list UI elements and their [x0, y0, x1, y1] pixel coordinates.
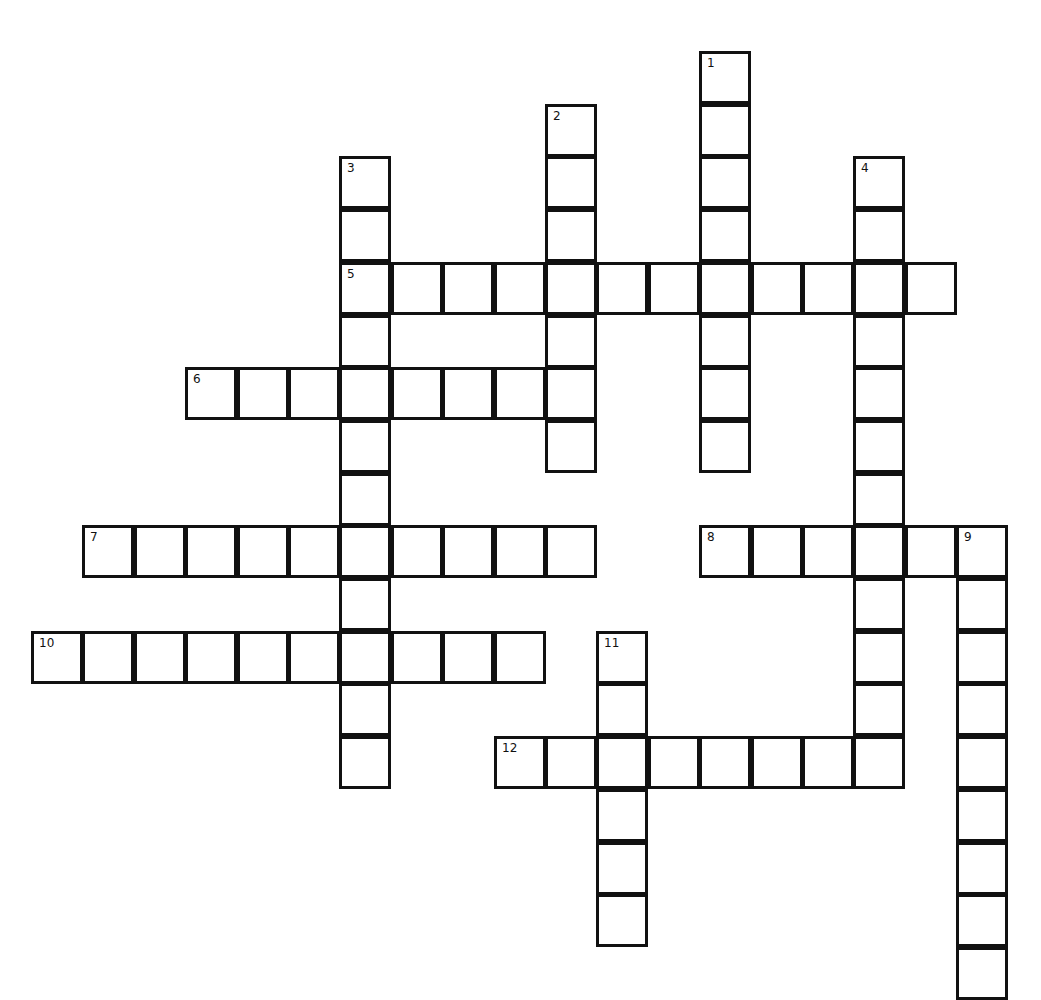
crossword-cell[interactable] [494, 262, 546, 315]
crossword-cell[interactable] [853, 736, 905, 789]
crossword-cell[interactable] [545, 736, 597, 789]
crossword-cell[interactable] [339, 525, 391, 578]
crossword-cell[interactable] [751, 525, 803, 578]
crossword-cell[interactable] [853, 315, 905, 368]
crossword-cell[interactable] [339, 578, 391, 631]
crossword-cell[interactable] [545, 156, 597, 209]
crossword-cell[interactable] [185, 525, 237, 578]
crossword-cell[interactable] [134, 525, 186, 578]
crossword-cell[interactable] [751, 736, 803, 789]
crossword-cell[interactable]: 11 [596, 631, 648, 684]
crossword-cell[interactable]: 7 [82, 525, 134, 578]
crossword-cell[interactable] [545, 525, 597, 578]
crossword-cell[interactable] [545, 367, 597, 420]
clue-number: 4 [861, 162, 869, 174]
crossword-cell[interactable] [853, 473, 905, 526]
crossword-cell[interactable] [596, 262, 648, 315]
crossword-cell[interactable] [185, 631, 237, 684]
crossword-cell[interactable] [494, 631, 546, 684]
crossword-cell[interactable] [648, 736, 700, 789]
crossword-cell[interactable]: 5 [339, 262, 391, 315]
crossword-cell[interactable] [442, 631, 494, 684]
crossword-cell[interactable] [802, 736, 854, 789]
crossword-cell[interactable] [802, 262, 854, 315]
crossword-cell[interactable] [956, 736, 1008, 789]
crossword-cell[interactable] [956, 631, 1008, 684]
crossword-cell[interactable] [699, 420, 751, 473]
crossword-cell[interactable] [699, 367, 751, 420]
crossword-cell[interactable] [853, 262, 905, 315]
crossword-cell[interactable]: 12 [494, 736, 546, 789]
crossword-cell[interactable]: 3 [339, 156, 391, 209]
crossword-cell[interactable] [339, 736, 391, 789]
crossword-cell[interactable] [699, 315, 751, 368]
crossword-cell[interactable] [905, 525, 957, 578]
crossword-cell[interactable] [339, 209, 391, 262]
crossword-cell[interactable] [853, 578, 905, 631]
crossword-cell[interactable] [237, 525, 289, 578]
crossword-cell[interactable] [956, 947, 1008, 1000]
crossword-cell[interactable] [545, 315, 597, 368]
crossword-cell[interactable] [288, 631, 340, 684]
crossword-cell[interactable] [956, 683, 1008, 736]
crossword-cell[interactable] [853, 683, 905, 736]
crossword-cell[interactable] [853, 420, 905, 473]
crossword-cell[interactable] [545, 262, 597, 315]
crossword-cell[interactable] [494, 367, 546, 420]
crossword-cell[interactable] [339, 631, 391, 684]
crossword-cell[interactable] [442, 367, 494, 420]
crossword-cell[interactable] [596, 842, 648, 895]
crossword-cell[interactable] [596, 894, 648, 947]
clue-number: 3 [347, 162, 355, 174]
crossword-cell[interactable] [956, 894, 1008, 947]
crossword-cell[interactable] [853, 525, 905, 578]
crossword-cell[interactable] [802, 525, 854, 578]
crossword-cell[interactable] [288, 367, 340, 420]
crossword-cell[interactable] [596, 683, 648, 736]
crossword-cell[interactable] [339, 420, 391, 473]
crossword-cell[interactable] [699, 156, 751, 209]
crossword-cell[interactable]: 10 [31, 631, 83, 684]
crossword-cell[interactable]: 1 [699, 51, 751, 104]
crossword-cell[interactable] [339, 367, 391, 420]
crossword-cell[interactable]: 4 [853, 156, 905, 209]
crossword-cell[interactable] [494, 525, 546, 578]
crossword-cell[interactable]: 9 [956, 525, 1008, 578]
crossword-cell[interactable] [853, 631, 905, 684]
crossword-cell[interactable] [339, 315, 391, 368]
crossword-cell[interactable] [288, 525, 340, 578]
crossword-cell[interactable]: 8 [699, 525, 751, 578]
crossword-cell[interactable] [442, 262, 494, 315]
crossword-cell[interactable] [596, 736, 648, 789]
crossword-cell[interactable] [699, 262, 751, 315]
crossword-cell[interactable] [134, 631, 186, 684]
crossword-cell[interactable] [237, 367, 289, 420]
crossword-cell[interactable] [699, 736, 751, 789]
crossword-cell[interactable] [391, 525, 443, 578]
clue-number: 7 [90, 531, 98, 543]
crossword-cell[interactable] [391, 262, 443, 315]
clue-number: 11 [604, 637, 619, 649]
crossword-cell[interactable]: 2 [545, 104, 597, 157]
crossword-cell[interactable] [339, 683, 391, 736]
crossword-cell[interactable]: 6 [185, 367, 237, 420]
crossword-cell[interactable] [956, 578, 1008, 631]
crossword-cell[interactable] [699, 104, 751, 157]
crossword-cell[interactable] [545, 209, 597, 262]
crossword-cell[interactable] [956, 842, 1008, 895]
crossword-cell[interactable] [699, 209, 751, 262]
crossword-cell[interactable] [853, 367, 905, 420]
crossword-cell[interactable] [391, 631, 443, 684]
crossword-cell[interactable] [596, 789, 648, 842]
crossword-cell[interactable] [905, 262, 957, 315]
crossword-cell[interactable] [751, 262, 803, 315]
crossword-cell[interactable] [391, 367, 443, 420]
crossword-cell[interactable] [442, 525, 494, 578]
crossword-cell[interactable] [545, 420, 597, 473]
crossword-cell[interactable] [237, 631, 289, 684]
crossword-cell[interactable] [853, 209, 905, 262]
crossword-cell[interactable] [648, 262, 700, 315]
crossword-cell[interactable] [956, 789, 1008, 842]
crossword-cell[interactable] [82, 631, 134, 684]
crossword-cell[interactable] [339, 473, 391, 526]
